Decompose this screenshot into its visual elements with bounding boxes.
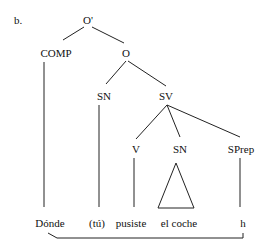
- example-label: b.: [14, 14, 23, 26]
- node-sprep: SPrep: [228, 143, 255, 155]
- movement-bracket: [48, 233, 243, 238]
- edge-root-comp: [63, 27, 84, 40]
- edge-o-sn: [106, 61, 126, 84]
- node-comp: COMP: [40, 47, 71, 59]
- edge-o-sv: [128, 61, 166, 86]
- tree-edges: [44, 27, 240, 208]
- edge-sv-v: [136, 105, 167, 139]
- edge-root-o: [92, 27, 124, 43]
- leaf-donde: Dónde: [35, 217, 64, 229]
- node-o: O: [122, 47, 130, 59]
- leaf-el-coche: el coche: [161, 217, 197, 229]
- node-sn-object: SN: [173, 143, 187, 155]
- node-root-o-prime: O': [83, 14, 93, 26]
- syntax-tree-diagram: b. O' COMP O SN SV V SN SPrep Dónde (tú)…: [0, 0, 268, 250]
- leaf-pusiste: pusiste: [116, 217, 147, 229]
- leaf-tu: (tú): [89, 217, 105, 230]
- leaf-h: h: [240, 217, 246, 229]
- triangle-sn-el-coche: [158, 163, 194, 208]
- node-sn-subject: SN: [97, 90, 111, 102]
- node-v: V: [132, 143, 140, 155]
- node-sv: SV: [159, 90, 173, 102]
